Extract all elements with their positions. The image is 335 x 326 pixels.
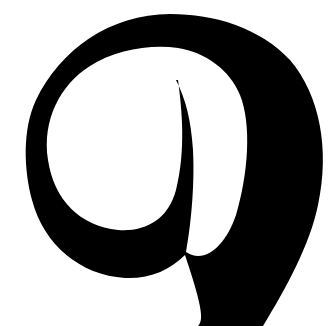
numeral-nine-glyph	[0, 0, 335, 326]
